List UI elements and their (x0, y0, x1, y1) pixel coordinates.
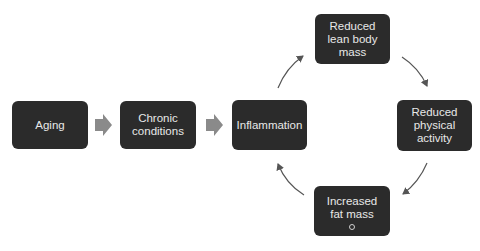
block-arrow-chronic-to-inflammation (206, 114, 223, 136)
connectors (0, 0, 480, 251)
curved-arrow-fat-to-inflammation (278, 164, 304, 195)
curved-arrow-inflammation-to-lean (278, 56, 303, 88)
curved-arrow-lean-to-activity (402, 57, 427, 86)
block-arrow-aging-to-chronic (95, 114, 112, 136)
curved-arrow-activity-to-fat (403, 163, 427, 194)
